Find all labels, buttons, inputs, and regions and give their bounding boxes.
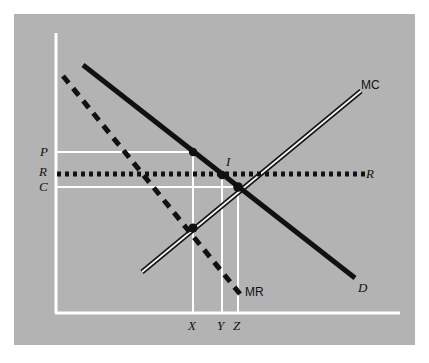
- y-tick-label-price: P: [40, 145, 48, 158]
- competitive-equilibrium-point: [233, 182, 243, 192]
- annotation-label-intersection: I: [226, 155, 230, 168]
- regulated-price-point: [218, 171, 226, 179]
- mc-line-inner-gap: [142, 91, 361, 272]
- y-tick-label-regulated: R: [39, 165, 47, 178]
- y-tick-label-cost: C: [39, 180, 48, 193]
- marginal-cost-curve: [142, 91, 361, 272]
- monopoly-price-point: [189, 148, 197, 156]
- curve-label-demand: D: [358, 281, 367, 294]
- chart-marked-points: [188, 148, 242, 233]
- chart-plot-area: [0, 0, 429, 363]
- mr-mc-intersection-point: [188, 223, 197, 232]
- x-tick-label-z: Z: [233, 319, 240, 332]
- x-tick-label-x: X: [188, 319, 196, 332]
- economics-diagram-figure: P R C X Y Z MC MR D R I: [0, 0, 429, 363]
- x-tick-label-y: Y: [217, 319, 224, 332]
- curve-label-regulated-price: R: [366, 167, 374, 180]
- curve-label-marginal-revenue: MR: [245, 286, 264, 298]
- curve-label-marginal-cost: MC: [361, 79, 380, 91]
